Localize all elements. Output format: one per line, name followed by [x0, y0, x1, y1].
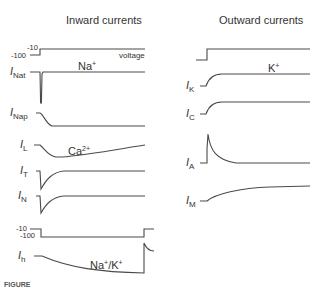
voltage-high-label: -10	[27, 43, 38, 52]
im-label: IM	[186, 195, 196, 209]
voltage-trace-label: voltage	[119, 51, 145, 60]
ih-label: Ih	[18, 250, 26, 264]
k-ion-label: K+	[268, 62, 279, 74]
ia-label: IA	[186, 157, 194, 171]
ia-trace	[200, 134, 310, 163]
ic-label: IC	[186, 108, 195, 122]
inap-trace	[36, 113, 145, 126]
it-trace	[36, 171, 145, 189]
voltage-step-2-trace	[30, 229, 154, 237]
voltage-2-low-label: -100	[20, 231, 35, 240]
inap-label: INap	[10, 107, 28, 121]
ik-label: IK	[186, 80, 194, 94]
it-label: IT	[20, 165, 28, 179]
il-label: IL	[20, 139, 28, 153]
voltage-low-label: -100	[11, 51, 26, 60]
ik-trace	[200, 74, 310, 86]
right-voltage-step-trace	[196, 49, 310, 60]
im-trace	[200, 186, 310, 201]
na-k-ion-label: Na+/K+	[90, 259, 123, 271]
figure-caption-fragment: FIGURE	[4, 281, 30, 288]
in-trace	[36, 196, 145, 213]
in-label: IN	[18, 190, 27, 204]
ic-trace	[200, 102, 310, 114]
inat-label: INat	[10, 66, 26, 80]
na-ion-label: Na+	[78, 60, 96, 72]
inat-trace	[30, 72, 145, 103]
ca-ion-label: Ca2+	[68, 145, 90, 157]
